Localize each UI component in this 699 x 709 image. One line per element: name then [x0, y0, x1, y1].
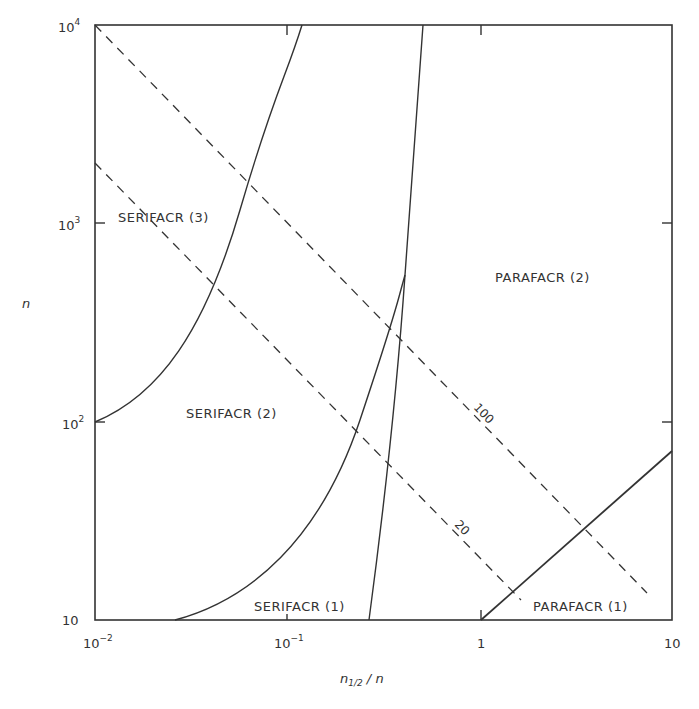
dashed-line-20 — [95, 163, 521, 600]
x-axis-ticks — [287, 25, 481, 620]
plot-frame — [95, 25, 672, 620]
dashed-line-100 — [95, 25, 647, 593]
y-tick-label-10000: 104 — [58, 17, 81, 35]
line-parafacr1-boundary — [481, 451, 672, 620]
chart-canvas: 104 103 102 10 10−2 10−1 1 10 n n1/2 / n… — [0, 0, 699, 709]
region-label-parafacr2: PARAFACR (2) — [495, 270, 590, 285]
region-label-parafacr1: PARAFACR (1) — [533, 599, 628, 614]
y-axis-title: n — [22, 296, 30, 311]
y-tick-label-100: 102 — [62, 414, 84, 432]
region-label-serifacr3: SERIFACR (3) — [118, 210, 209, 225]
dashed-line-label-100: 100 — [471, 400, 497, 426]
y-axis-ticks — [95, 223, 672, 422]
region-label-serifacr2: SERIFACR (2) — [186, 406, 277, 421]
region-label-serifacr1: SERIFACR (1) — [254, 599, 345, 614]
x-axis-title: n1/2 / n — [340, 671, 384, 688]
y-tick-label-10: 10 — [62, 613, 79, 628]
x-tick-label-10: 10 — [664, 636, 681, 651]
dashed-line-label-20: 20 — [452, 517, 473, 538]
y-tick-label-1000: 103 — [58, 215, 80, 233]
curve-serifacr-parafacr-boundary — [369, 25, 423, 620]
curve-serifacr2-boundary — [175, 275, 405, 620]
x-tick-label-0.1: 10−1 — [274, 633, 304, 651]
x-tick-label-1: 1 — [477, 636, 485, 651]
x-tick-label-0.01: 10−2 — [83, 633, 113, 651]
